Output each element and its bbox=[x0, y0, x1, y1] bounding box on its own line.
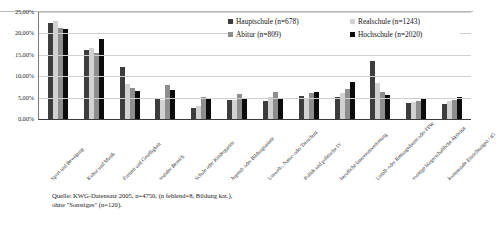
bar-group bbox=[147, 12, 183, 119]
legend-item: Abitur (n=809) bbox=[228, 28, 344, 41]
legend-label: Hauptschule (n=678) bbox=[236, 16, 299, 27]
bar bbox=[314, 92, 319, 119]
bar-group bbox=[112, 12, 148, 119]
gridline bbox=[39, 55, 471, 56]
bar bbox=[242, 98, 247, 119]
y-axis-tick-label: 20,00% bbox=[15, 30, 34, 36]
legend-swatch-icon bbox=[228, 19, 233, 24]
gridline bbox=[39, 98, 471, 99]
bar bbox=[63, 29, 68, 119]
cropped-header-strip bbox=[60, 0, 240, 11]
x-axis-category-label: Politik und politische IV bbox=[303, 142, 343, 182]
bar bbox=[350, 82, 355, 119]
y-axis-tick-label: 15,00% bbox=[15, 52, 34, 58]
x-axis-category-labels: Sport und BewegungKultur und MusikFreize… bbox=[38, 120, 471, 182]
x-axis-category-label: Kultur und Musik bbox=[86, 152, 116, 182]
chart-legend: Hauptschule (n=678)Realschule (n=1243)Ab… bbox=[228, 13, 460, 43]
bar bbox=[278, 98, 283, 119]
legend-label: Realschule (n=1243) bbox=[358, 16, 420, 27]
legend-label: Abitur (n=809) bbox=[236, 29, 281, 40]
bar-group bbox=[40, 12, 76, 119]
y-axis-tick-label: 5,00% bbox=[18, 94, 34, 100]
bar bbox=[421, 99, 426, 119]
bar bbox=[385, 95, 390, 119]
bar bbox=[135, 91, 140, 119]
y-axis-tick-label: 25,00% bbox=[15, 9, 34, 15]
legend-item: Realschule (n=1243) bbox=[344, 15, 460, 28]
legend-swatch-icon bbox=[350, 19, 355, 24]
bar bbox=[206, 99, 211, 119]
x-axis-category-label: Sport und Bewegung bbox=[50, 147, 85, 182]
x-axis-category-label: Unfall- oder Rettungsdienst oder FFW bbox=[375, 121, 436, 182]
bar bbox=[170, 90, 175, 119]
legend-swatch-icon bbox=[350, 32, 355, 37]
y-axis: 0,00%5,00%10,00%15,00%20,00%25,00% bbox=[0, 12, 38, 120]
source-note: Quelle: KWG-Datensatz 2005, n=4750, (n f… bbox=[52, 191, 232, 209]
legend-item: Hauptschule (n=678) bbox=[228, 15, 344, 28]
bar-group bbox=[76, 12, 112, 119]
legend-swatch-icon bbox=[228, 32, 233, 37]
bar bbox=[457, 97, 462, 119]
y-axis-tick-label: 10,00% bbox=[15, 73, 34, 79]
legend-item: Hochschule (n=2020) bbox=[344, 28, 460, 41]
bar bbox=[99, 39, 104, 119]
gridline bbox=[39, 76, 471, 77]
legend-label: Hochschule (n=2020) bbox=[358, 29, 422, 40]
x-axis-category-label: sozialer Bereich bbox=[158, 154, 186, 182]
bar-group bbox=[183, 12, 219, 119]
y-axis-tick-label: 0,00% bbox=[18, 116, 34, 122]
